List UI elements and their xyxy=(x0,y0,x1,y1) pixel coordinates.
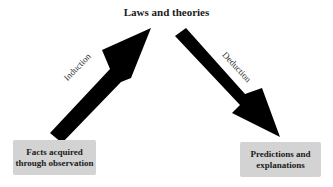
facts-box-line2: through observation xyxy=(15,158,93,169)
predictions-box-line1: Predictions and xyxy=(250,149,310,160)
deduction-arrow-icon xyxy=(175,28,280,137)
induction-arrow-icon xyxy=(50,28,151,143)
predictions-explanations-box: Predictions and explanations xyxy=(240,142,321,177)
facts-box-line1: Facts acquired xyxy=(15,147,93,158)
predictions-box-line2: explanations xyxy=(250,160,310,171)
facts-observation-box: Facts acquired through observation xyxy=(13,140,96,175)
